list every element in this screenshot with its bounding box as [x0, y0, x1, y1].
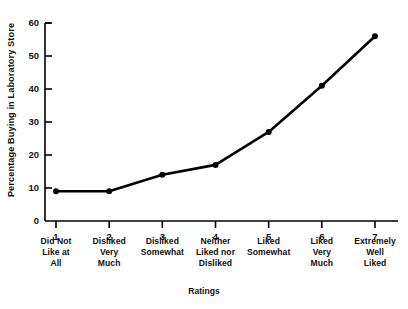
data-line	[56, 36, 375, 191]
x-category-label-line: Well	[347, 247, 403, 258]
x-category-label: DislikedSomewhat	[134, 236, 190, 258]
x-category-label-line: Extremely	[347, 236, 403, 247]
x-category-label-line: Liked	[241, 236, 297, 247]
x-category-label: LikedVeryMuch	[294, 236, 350, 270]
data-point	[372, 33, 378, 39]
x-category-label-line: Somewhat	[241, 247, 297, 258]
x-category-label-line: Liked nor	[188, 247, 244, 258]
x-axis-title: Ratings	[0, 286, 408, 296]
y-tick-label: 0	[34, 215, 39, 226]
x-category-label-line: Much	[81, 258, 137, 269]
y-tick-label: 10	[28, 182, 39, 193]
x-category-label-line: Like at	[28, 247, 84, 258]
data-point	[106, 188, 112, 194]
data-point	[266, 129, 272, 135]
y-tick-label: 30	[28, 116, 39, 127]
x-category-label: LikedSomewhat	[241, 236, 297, 258]
x-category-label-line: Neither	[188, 236, 244, 247]
y-tick-label: 20	[28, 149, 39, 160]
x-category-label-line: Much	[294, 258, 350, 269]
y-tick-label: 50	[28, 50, 39, 61]
x-category-label-line: Did Not	[28, 236, 84, 247]
data-point	[159, 172, 165, 178]
x-category-label-line: All	[28, 258, 84, 269]
x-category-label-line: Very	[81, 247, 137, 258]
data-point	[213, 162, 219, 168]
x-category-label-line: Somewhat	[134, 247, 190, 258]
x-category-label-line: Very	[294, 247, 350, 258]
data-point	[319, 83, 325, 89]
x-category-label-line: Liked	[347, 258, 403, 269]
chart-figure: Percentage Buying in Laboratory Store 01…	[0, 0, 408, 309]
y-tick-label: 40	[28, 83, 39, 94]
x-category-label: DislikedVeryMuch	[81, 236, 137, 270]
x-category-label-line: Liked	[294, 236, 350, 247]
x-category-label-line: Disliked	[81, 236, 137, 247]
x-category-label-line: Disliked	[188, 258, 244, 269]
x-category-label: NeitherLiked norDisliked	[188, 236, 244, 270]
y-tick-label: 60	[28, 17, 39, 28]
x-category-label-line: Disliked	[134, 236, 190, 247]
x-category-label: ExtremelyWellLiked	[347, 236, 403, 270]
data-point	[53, 188, 59, 194]
x-category-label: Did NotLike atAll	[28, 236, 84, 270]
